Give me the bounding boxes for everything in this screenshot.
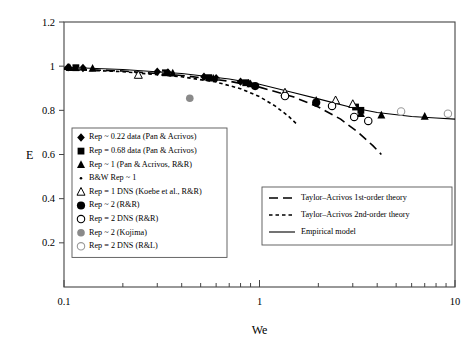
data-point-small-dot [78, 67, 81, 70]
data-point-filled-triangle [377, 111, 385, 119]
data-point-open-triangle [349, 100, 357, 108]
data-point-open-circle [328, 102, 335, 109]
data-point-filled-square [78, 148, 85, 155]
curve-short-dash [64, 69, 297, 124]
data-point-small-dot [161, 71, 164, 74]
data-point-gray-open-circle [397, 108, 404, 115]
legend-item[interactable]: Rep = 2 DNS (R&R) [77, 214, 158, 223]
data-point-open-circle [365, 117, 372, 124]
y-tick-label: 0.6 [42, 149, 55, 160]
legend-left: Rep ~ 0.22 data (Pan & Acrivos)Rep = 0.6… [72, 128, 227, 257]
data-point-gray-open-circle [77, 243, 84, 250]
legend-item-label: Rep = 1 DNS (Koebe et al., R&R) [89, 187, 202, 196]
data-point-gray-filled-circle [186, 94, 194, 102]
legend-item[interactable]: Rep ~ 1 (Pan & Acrivos, R&R) [77, 160, 192, 169]
legend-item[interactable]: Rep = 1 DNS (Koebe et al., R&R) [77, 187, 202, 196]
x-tick-label: 1 [257, 296, 262, 307]
data-point-gray-filled-circle [77, 229, 85, 237]
legend-item-label: Rep = 2 DNS (R&R) [89, 214, 158, 223]
legend-item-label: Empirical model [301, 227, 357, 236]
legend-item-label: Rep ~ 1 (Pan & Acrivos, R&R) [89, 160, 192, 169]
legend-item-label: Taylor–Acrivos 2nd-order theory [301, 210, 410, 219]
legend-item-label: Taylor–Acrivos 1st-order theory [301, 193, 408, 202]
legend-item-label: Rep = 0.68 data (Pan & Acrivos) [89, 146, 197, 155]
data-point-open-circle [350, 113, 357, 120]
legend-item-label: Rep ~ 0.22 data (Pan & Acrivos) [89, 132, 197, 141]
y-tick-label: 1 [50, 61, 55, 72]
y-axis-title: E [26, 148, 33, 162]
data-point-open-circle [77, 215, 84, 222]
x-tick-label: 0.1 [57, 296, 70, 307]
legend-item-label: Rep = 2 DNS (R&L) [89, 241, 158, 250]
series-gray-filled-circle [186, 94, 194, 102]
legend-right: Taylor–Acrivos 1st-order theoryTaylor–Ac… [262, 187, 452, 245]
legend-item-label: B&W Rep ~ 1 [89, 173, 136, 182]
data-point-small-dot [218, 78, 221, 81]
legend-item[interactable]: B&W Rep ~ 1 [80, 173, 137, 182]
y-tick-label: 0.4 [42, 193, 56, 204]
data-point-filled-triangle [421, 112, 429, 120]
legend-item-label: Rep ~ 2 (R&R) [89, 200, 140, 209]
curve-solid [64, 67, 455, 119]
data-point-filled-diamond [153, 67, 161, 75]
legend-item[interactable]: Rep = 0.68 data (Pan & Acrivos) [78, 146, 197, 155]
x-axis: 0.1110We [57, 280, 460, 337]
data-point-small-dot [80, 177, 83, 180]
y-tick-label: 0.2 [42, 237, 55, 248]
y-tick-label: 1.2 [42, 17, 55, 28]
data-point-filled-circle [312, 99, 320, 107]
data-point-filled-circle [251, 82, 259, 90]
data-point-gray-open-circle [444, 110, 451, 117]
data-point-filled-square [72, 64, 79, 71]
y-tick-label: 0.8 [42, 105, 55, 116]
data-point-open-circle [281, 92, 288, 99]
chart-container: 0.20.40.60.811.2E0.1110WeRep ~ 0.22 data… [0, 0, 475, 350]
x-axis-title: We [252, 323, 268, 337]
legend-item[interactable]: Rep ~ 0.22 data (Pan & Acrivos) [77, 132, 197, 141]
x-tick-label: 10 [450, 296, 461, 307]
legend-item[interactable]: Rep = 2 DNS (R&L) [77, 241, 158, 250]
data-point-filled-circle [77, 201, 85, 209]
legend-item-label: Rep ~ 2 (Kojima) [89, 228, 147, 237]
efficiency-vs-weber-chart: 0.20.40.60.811.2E0.1110WeRep ~ 0.22 data… [0, 0, 475, 350]
y-axis: 0.20.40.60.811.2E [26, 17, 64, 249]
